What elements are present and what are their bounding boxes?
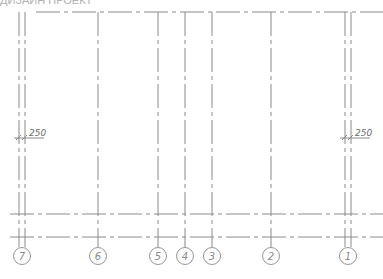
axis-bubble-4: 4 [177, 248, 194, 265]
axis-bubble-1: 1 [340, 248, 357, 265]
axis-bubble-7: 7 [14, 248, 31, 265]
axis-label: 6 [95, 251, 101, 262]
dimension-label: 250 [29, 128, 46, 138]
axis-bubble-2: 2 [263, 248, 280, 265]
axis-bubble-3: 3 [204, 248, 221, 265]
axis-label: 5 [155, 251, 161, 262]
axis-label: 2 [268, 251, 274, 262]
grid-drawing: 250 250 7 6 5 4 3 2 1 [0, 0, 383, 279]
axis-bubble-6: 6 [90, 248, 107, 265]
dimension-label: 250 [355, 128, 372, 138]
axis-label: 3 [209, 251, 215, 262]
axis-label: 7 [19, 251, 26, 262]
vertical-gridlines [19, 12, 351, 247]
horizontal-gridlines [10, 12, 383, 237]
axis-label: 4 [182, 251, 188, 262]
axis-label: 1 [345, 251, 351, 262]
axis-bubble-5: 5 [150, 248, 167, 265]
